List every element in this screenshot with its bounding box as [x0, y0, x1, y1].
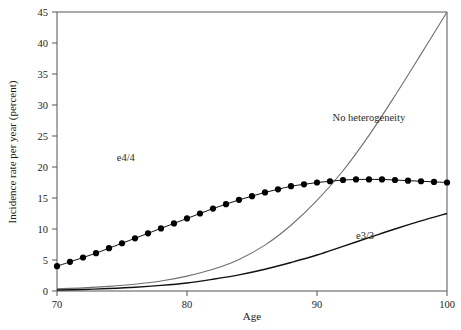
x-tick-label: 90 — [312, 299, 323, 310]
incidence-rate-line-chart: 051015202530354045 708090100 Incidence r… — [0, 0, 461, 330]
data-point-marker — [275, 186, 281, 192]
y-axis-title: Incidence rate per year (percent) — [6, 80, 19, 223]
annotation-e33: e3/3 — [356, 230, 374, 241]
y-tick-label: 40 — [38, 38, 49, 49]
y-tick-label: 15 — [38, 193, 49, 204]
data-point-marker — [171, 220, 177, 226]
data-point-marker — [379, 176, 385, 182]
x-tick-label: 100 — [439, 299, 455, 310]
y-tick-label: 20 — [38, 162, 49, 173]
annotation-e44: e4/4 — [117, 152, 136, 163]
data-point-marker — [314, 179, 320, 185]
x-tick-label: 70 — [52, 299, 63, 310]
data-point-marker — [444, 179, 450, 185]
data-point-marker — [431, 179, 437, 185]
annotation-no-heterogeneity: No heterogeneity — [333, 112, 406, 123]
data-point-marker — [210, 205, 216, 211]
data-point-marker — [405, 178, 411, 184]
data-point-marker — [353, 176, 359, 182]
x-axis-title: Age — [243, 310, 261, 322]
y-tick-label: 35 — [38, 69, 49, 80]
y-tick-label: 10 — [38, 224, 49, 235]
data-point-marker — [197, 210, 203, 216]
data-point-marker — [145, 230, 151, 236]
y-tick-label: 25 — [38, 131, 49, 142]
data-point-marker — [288, 183, 294, 189]
x-tick-label: 80 — [182, 299, 193, 310]
data-point-marker — [119, 240, 125, 246]
data-point-marker — [80, 254, 86, 260]
data-point-marker — [236, 197, 242, 203]
y-tick-label: 5 — [43, 255, 48, 266]
data-point-marker — [67, 259, 73, 265]
chart-background — [0, 0, 461, 330]
data-point-marker — [106, 245, 112, 251]
data-point-marker — [262, 189, 268, 195]
y-tick-label: 0 — [43, 286, 48, 297]
y-tick-label: 45 — [38, 7, 49, 18]
chart-figure: 051015202530354045 708090100 Incidence r… — [0, 0, 461, 330]
data-point-marker — [132, 235, 138, 241]
data-point-marker — [340, 177, 346, 183]
data-point-marker — [392, 177, 398, 183]
data-point-marker — [327, 178, 333, 184]
data-point-marker — [93, 250, 99, 256]
data-point-marker — [249, 193, 255, 199]
data-point-marker — [418, 178, 424, 184]
y-tick-label: 30 — [38, 100, 49, 111]
data-point-marker — [366, 176, 372, 182]
data-point-marker — [184, 215, 190, 221]
data-point-marker — [158, 225, 164, 231]
data-point-marker — [54, 263, 60, 269]
data-point-marker — [223, 201, 229, 207]
data-point-marker — [301, 181, 307, 187]
